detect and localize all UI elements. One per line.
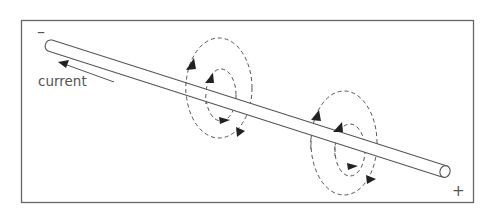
arrow-right-icon	[366, 175, 376, 184]
arrow-up-icon	[333, 122, 343, 132]
arrow-up-icon	[205, 73, 214, 83]
arrow-up-icon	[186, 58, 196, 70]
negative-terminal-label: –	[37, 22, 45, 41]
magnetic-field-around-wire-diagram: – + current	[0, 0, 493, 212]
conductor-rod	[45, 40, 452, 179]
current-label: current	[38, 73, 87, 89]
positive-terminal-label: +	[452, 182, 465, 200]
arrow-right-icon	[347, 163, 358, 170]
arrow-right-icon	[236, 127, 245, 137]
arrow-up-icon	[311, 110, 321, 121]
